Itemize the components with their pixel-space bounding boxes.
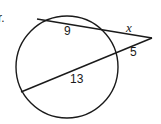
label-top-external: x — [125, 20, 132, 35]
label-top-internal: 9 — [64, 24, 71, 38]
top-secant — [37, 19, 152, 38]
label-bottom-internal: 13 — [70, 72, 84, 86]
secant-diagram: r. 9 x 5 13 — [0, 0, 161, 124]
problem-number: r. — [0, 11, 5, 25]
label-bottom-external: 5 — [130, 45, 137, 59]
